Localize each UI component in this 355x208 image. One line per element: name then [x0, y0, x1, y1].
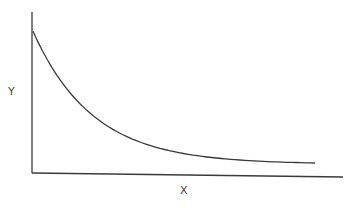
chart-canvas [0, 0, 355, 208]
x-axis [32, 173, 343, 177]
y-axis-label: Y [8, 85, 15, 98]
x-axis-label: X [180, 184, 188, 197]
decay-curve [33, 31, 315, 163]
